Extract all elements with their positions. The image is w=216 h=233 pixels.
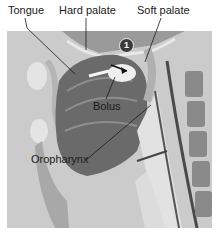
label-oropharynx: Oropharynx xyxy=(31,153,88,165)
illustration-panel xyxy=(7,31,212,228)
label-hard-palate: Hard palate xyxy=(59,4,116,16)
step-number-badge: 1 xyxy=(119,38,134,53)
label-tongue: Tongue xyxy=(8,4,44,16)
sagittal-head-illustration xyxy=(7,31,212,228)
label-soft-palate: Soft palate xyxy=(137,4,190,16)
label-bolus: Bolus xyxy=(93,100,121,112)
